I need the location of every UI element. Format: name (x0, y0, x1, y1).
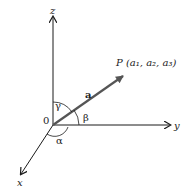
z-axis-label: z (49, 5, 56, 16)
vector-label: a (85, 89, 92, 100)
beta-label: β (83, 112, 89, 123)
vector-direction-diagram: z y x 0 a P (a₁, a₂, a₃) γ β α (0, 0, 191, 192)
x-axis-label: x (17, 177, 23, 188)
beta-arc (74, 110, 79, 125)
point-label: P (a₁, a₂, a₃) (115, 57, 176, 68)
gamma-label: γ (55, 100, 61, 111)
x-axis (21, 125, 53, 174)
origin-label: 0 (43, 115, 49, 126)
alpha-label: α (56, 135, 63, 146)
y-axis-label: y (173, 120, 180, 131)
